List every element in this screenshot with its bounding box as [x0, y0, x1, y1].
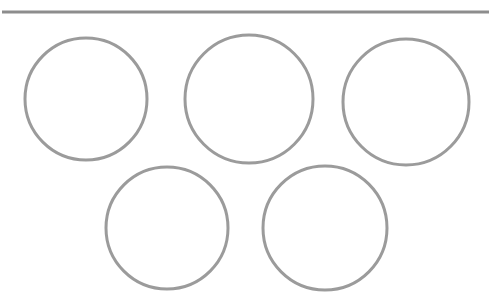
figure-canvas [0, 0, 492, 293]
canvas-background [0, 0, 492, 293]
rings-diagram [0, 0, 492, 293]
